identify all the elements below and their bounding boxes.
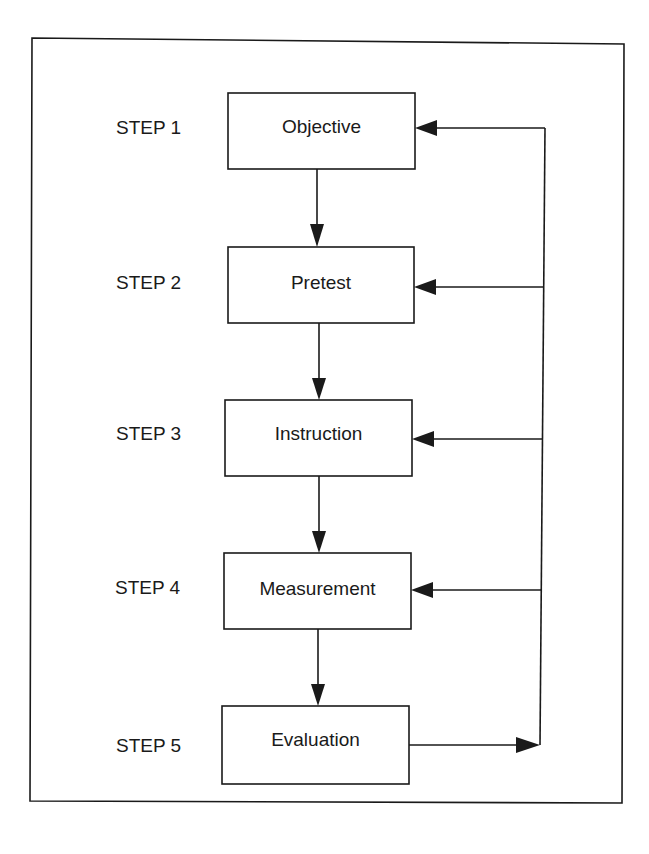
box-label-measurement: Measurement	[224, 578, 411, 600]
feedback-loop	[409, 120, 545, 753]
step-label-5: STEP 5	[116, 735, 181, 757]
box-label-instruction: Instruction	[225, 423, 412, 445]
step-label-4: STEP 4	[115, 577, 180, 599]
step-label-1: STEP 1	[116, 117, 181, 139]
outer-frame	[30, 38, 624, 803]
box-label-evaluation: Evaluation	[222, 729, 409, 751]
step-label-3: STEP 3	[116, 423, 181, 445]
box-label-objective: Objective	[228, 116, 415, 138]
box-label-pretest: Pretest	[228, 272, 414, 294]
step-label-2: STEP 2	[116, 272, 181, 294]
